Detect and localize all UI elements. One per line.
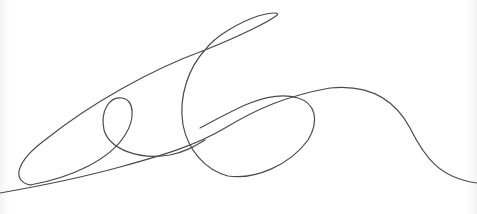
signature-big-loop-stroke (19, 13, 315, 185)
signature-small-loop-stroke (30, 98, 205, 185)
signature-canvas (0, 0, 477, 214)
signature-drawing (0, 0, 477, 214)
